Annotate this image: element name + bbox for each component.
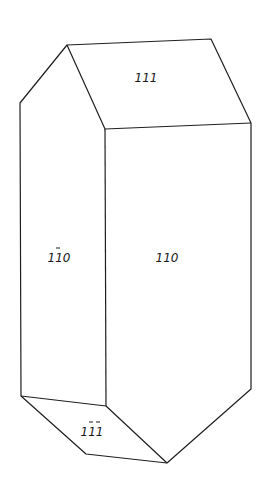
face-label-1bar10: 110 xyxy=(48,251,71,265)
face-label-111: 111 xyxy=(135,71,158,85)
face-label-110: 110 xyxy=(156,251,179,265)
prism-edge xyxy=(105,129,106,406)
face-label-1bar1bar1bar: 111 xyxy=(81,425,104,439)
crystal-diagram: 111 110 110 111 xyxy=(0,0,271,495)
top-face-edge xyxy=(67,45,251,129)
